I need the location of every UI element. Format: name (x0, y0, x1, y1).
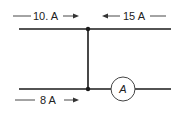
circuit-diagram: A 10. A 15 A 8 A (0, 0, 180, 113)
current-label-top-left: 10. A (13, 10, 79, 22)
ammeter-symbol: A (118, 83, 126, 95)
current-label-top-right: 15 A (102, 10, 166, 22)
arrow-right-icon (73, 14, 79, 19)
junction-dot-top (86, 27, 90, 31)
junction-dot-bottom (86, 87, 90, 91)
current-value: 15 A (123, 10, 146, 22)
current-label-bottom-left: 8 A (15, 94, 79, 106)
current-value: 10. A (33, 10, 59, 22)
ammeter: A (111, 77, 135, 101)
current-value: 8 A (40, 94, 57, 106)
arrow-right-icon (73, 98, 79, 103)
